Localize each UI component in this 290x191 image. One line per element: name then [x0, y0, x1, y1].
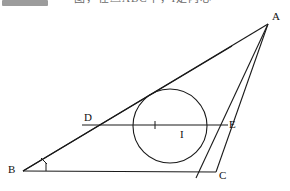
- point-label-e: E: [229, 119, 236, 130]
- vertex-label-a: A: [272, 11, 280, 22]
- side-ca: [216, 24, 268, 172]
- side-bc: [23, 171, 216, 172]
- incenter-label-i: I: [180, 129, 184, 140]
- point-label-d: D: [84, 112, 92, 123]
- geometry-figure: [0, 0, 290, 191]
- vertex-label-b: B: [8, 164, 15, 175]
- cevian-from-a: [196, 24, 268, 178]
- screenshot-canvas: 图，在△ABC中，I是内心 A B C D E I: [0, 0, 290, 191]
- bisector-from-b: [23, 46, 232, 171]
- incircle: [133, 89, 207, 163]
- vertex-label-c: C: [219, 170, 226, 181]
